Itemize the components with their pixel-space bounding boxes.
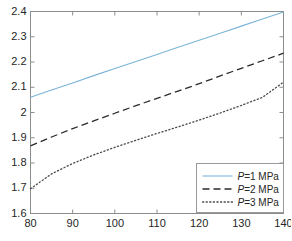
y-tick-label: 1.9 <box>11 132 26 143</box>
legend-value-text: =3 MPa <box>244 197 279 208</box>
x-tick-label: 140 <box>264 218 292 229</box>
legend-entry-label-1: P=1 MPa <box>238 171 280 182</box>
y-tick-label: 2.2 <box>11 56 26 67</box>
x-tick-label: 130 <box>221 218 261 229</box>
legend-entry-label-2: P=2 MPa <box>238 184 280 195</box>
legend-value-text: =2 MPa <box>244 184 279 195</box>
y-tick-label: 2.3 <box>11 31 26 42</box>
x-tick-label: 100 <box>95 218 135 229</box>
y-tick-label: 2.1 <box>11 81 26 92</box>
x-tick-label: 110 <box>137 218 177 229</box>
figure-canvas: P=1 MPaP=2 MPaP=3 MPa 1.61.71.81.922.12.… <box>0 0 291 241</box>
x-tick-label: 120 <box>179 218 219 229</box>
y-tick-label: 1.8 <box>11 157 26 168</box>
legend-value-text: =1 MPa <box>244 171 279 182</box>
chart-legend[interactable]: P=1 MPaP=2 MPaP=3 MPa <box>197 164 284 213</box>
plot-svg: P=1 MPaP=2 MPaP=3 MPa <box>0 0 291 241</box>
x-tick-label: 80 <box>11 218 51 229</box>
legend-entry-label-3: P=3 MPa <box>238 197 280 208</box>
y-tick-label: 2 <box>20 107 26 118</box>
y-tick-label: 1.7 <box>11 182 26 193</box>
y-tick-label: 2.4 <box>11 6 26 17</box>
x-tick-label: 90 <box>53 218 93 229</box>
